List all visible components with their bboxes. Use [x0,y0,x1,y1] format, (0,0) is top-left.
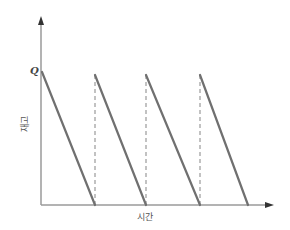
x-axis-arrow-icon [265,202,274,208]
inventory-series [42,72,248,205]
q-tick-label: Q [30,65,39,76]
replenishment-lines [95,75,200,205]
y-axis-arrow-icon [38,16,44,25]
y-axis-label: 재고 [18,116,31,132]
sawtooth-chart [0,0,290,230]
x-axis-label: 시간 [137,210,153,223]
